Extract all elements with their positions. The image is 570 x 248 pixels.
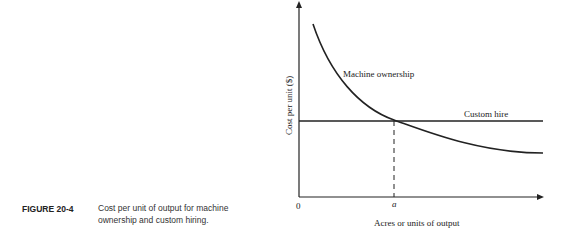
machine-ownership-label: Machine ownership	[343, 69, 415, 79]
a-tick-label: a	[392, 199, 397, 209]
custom-hire-label: Custom hire	[464, 109, 508, 119]
origin-label: 0	[296, 201, 301, 211]
machine-ownership-curve	[313, 24, 543, 153]
x-axis-label: Acres or units of output	[374, 218, 460, 228]
y-axis-arrow-icon	[296, 1, 302, 8]
y-axis-label: Cost per unit ($)	[284, 76, 294, 135]
cost-chart: 0 a Machine ownership Custom hire Acres …	[0, 0, 570, 248]
x-axis-arrow-icon	[537, 194, 544, 200]
